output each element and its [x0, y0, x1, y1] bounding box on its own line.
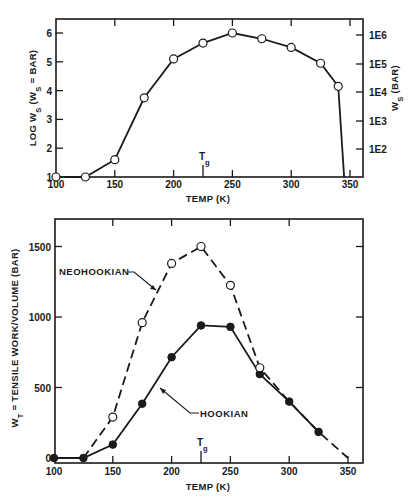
top-data-point	[52, 173, 60, 181]
top-data-point	[81, 173, 89, 181]
hookian-data-point	[50, 454, 58, 462]
top-y-right-tick-label: 1E6	[369, 30, 387, 41]
top-x-tick-label: 150	[106, 179, 123, 190]
top-y-tick-label: 3	[46, 114, 52, 125]
top-chart: 100150200250300350Tg1234561E21E31E41E51E…	[27, 19, 405, 204]
neohookian-data-point	[197, 243, 205, 251]
bottom-plot-frame	[55, 219, 363, 463]
hookian-data-point	[109, 441, 117, 449]
top-plot-frame	[56, 19, 363, 177]
top-y-tick-label: 2	[46, 143, 52, 154]
top-data-point	[228, 29, 236, 37]
hookian-data-point	[197, 322, 205, 330]
top-data-point	[170, 55, 178, 63]
neohookian-data-point	[109, 413, 117, 421]
hookian-line	[54, 325, 319, 458]
neohookian-label: NEOHOOKIAN	[59, 266, 129, 277]
top-y-tick-label: 5	[46, 57, 52, 68]
top-data-point	[334, 82, 342, 90]
hookian-data-point	[227, 323, 235, 331]
top-x-axis-title: TEMP (K)	[186, 193, 230, 204]
top-y-right-tick-label: 1E5	[369, 59, 387, 70]
bottom-y-tick-label: 1000	[29, 312, 52, 323]
top-y-tick-label: 6	[46, 28, 52, 39]
top-tg-label: Tg	[199, 151, 210, 167]
top-data-point	[258, 35, 266, 43]
bottom-y-axis-title: WT = TENSILE WORK/VOLUME (BAR)	[9, 248, 25, 427]
hookian-data-point	[138, 400, 146, 408]
bottom-x-tick-label: 100	[46, 466, 63, 477]
hookian-data-point	[285, 398, 293, 406]
bottom-tg-label: Tg	[197, 437, 208, 453]
bottom-x-tick-label: 300	[281, 466, 298, 477]
hookian-data-point	[80, 454, 88, 462]
top-y-right-tick-label: 1E3	[369, 116, 387, 127]
top-data-point	[199, 39, 207, 47]
bottom-x-tick-label: 250	[222, 466, 239, 477]
bottom-x-tick-label: 350	[340, 466, 357, 477]
neohookian-data-point	[226, 281, 234, 289]
top-x-tick-label: 250	[224, 179, 241, 190]
bottom-chart: 100150200250300350Tg050010001500TEMP (K)…	[9, 219, 363, 492]
neohookian-data-point	[138, 319, 146, 327]
hookian-data-point	[168, 353, 176, 361]
top-x-tick-label: 350	[342, 179, 359, 190]
top-data-point	[111, 156, 119, 164]
top-y-right-axis-title: WS (BAR)	[389, 65, 405, 111]
neohookian-line	[83, 247, 348, 459]
top-data-point	[140, 94, 148, 102]
hookian-label: HOOKIAN	[200, 408, 248, 419]
top-y-right-tick-label: 1E2	[369, 144, 387, 155]
bottom-y-tick-label: 500	[34, 383, 51, 394]
hookian-data-point	[315, 428, 323, 436]
hookian-arrowhead-icon	[160, 388, 166, 394]
top-y-right-tick-label: 1E4	[369, 87, 387, 98]
top-data-point	[287, 43, 295, 51]
top-x-tick-label: 300	[283, 179, 300, 190]
bottom-x-axis-title: TEMP (K)	[186, 481, 230, 492]
top-y-axis-title: LOG WS (WS = BAR)	[27, 50, 43, 147]
top-data-point	[317, 59, 325, 67]
neohookian-data-point	[168, 259, 176, 267]
top-x-tick-label: 200	[165, 179, 182, 190]
bottom-x-tick-label: 150	[104, 466, 121, 477]
bottom-y-tick-label: 1500	[29, 242, 52, 253]
hookian-arrow	[160, 388, 199, 413]
neohookian-data-point	[256, 364, 264, 372]
figure: 100150200250300350Tg1234561E21E31E41E51E…	[0, 0, 416, 496]
bottom-x-tick-label: 200	[163, 466, 180, 477]
top-y-tick-label: 4	[46, 86, 52, 97]
